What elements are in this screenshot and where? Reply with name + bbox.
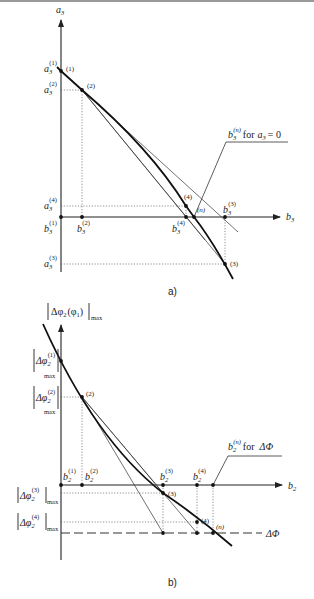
b2n-leader bbox=[213, 456, 282, 485]
diagram-canvas: a3 b3 b3(n)fora3= 0 (1) (2) (3) (4) (n) … bbox=[0, 0, 314, 599]
figure-b-caption: b) bbox=[168, 577, 177, 588]
figure-a: a3 b3 b3(n)fora3= 0 (1) (2) (3) (4) (n) … bbox=[44, 4, 295, 297]
a3-1-label: a3(1) bbox=[44, 59, 57, 75]
point-3 bbox=[223, 262, 227, 266]
threshold-marker-2 bbox=[195, 531, 199, 535]
b2-3-label: b2(3) bbox=[160, 467, 173, 483]
a3-2-label: a3(2) bbox=[44, 80, 57, 96]
guide-point-4 bbox=[61, 206, 186, 217]
svg-text:Δφ2(2): Δφ2(2) bbox=[35, 388, 55, 404]
point-4-label: (4) bbox=[184, 193, 193, 201]
b-point-2 bbox=[80, 395, 84, 399]
svg-text:max: max bbox=[44, 372, 56, 379]
figure-b: Δφ2(φ1) max ΔΦ b2(n)forΔΦ bbox=[18, 303, 297, 588]
b2n-annotation: b2(n)forΔΦ bbox=[228, 438, 273, 453]
threshold-label: ΔΦ bbox=[265, 528, 280, 539]
b2-n-marker bbox=[211, 483, 215, 487]
b3-3-label: b3(3) bbox=[223, 200, 236, 216]
point-n bbox=[192, 215, 196, 219]
svg-text:Δφ2(3): Δφ2(3) bbox=[19, 486, 39, 502]
svg-text:Δφ2(1): Δφ2(1) bbox=[35, 351, 55, 367]
figure-a-caption: a) bbox=[168, 286, 177, 297]
b-point-n bbox=[211, 531, 215, 535]
a3-4-label: a3(4) bbox=[44, 196, 57, 212]
svg-text:max: max bbox=[91, 314, 103, 321]
dphi2-curve bbox=[43, 324, 232, 546]
svg-text:Δφ2(φ1): Δφ2(φ1) bbox=[51, 306, 83, 318]
b2-1-marker bbox=[59, 483, 63, 487]
dphi2-1-label: Δφ2(1) max bbox=[34, 349, 58, 379]
guide-point-2 bbox=[61, 90, 82, 217]
point-1-label: (1) bbox=[66, 65, 75, 73]
b2-2-marker bbox=[80, 483, 84, 487]
b2-2-label: b2(2) bbox=[85, 467, 98, 483]
dphi2-axis-label: Δφ2(φ1) max bbox=[48, 303, 103, 321]
point-3-label: (3) bbox=[230, 260, 239, 268]
svg-text:Δφ2(4): Δφ2(4) bbox=[19, 513, 39, 529]
b2-1-label: b2(1) bbox=[63, 467, 76, 483]
svg-text:max: max bbox=[47, 498, 59, 505]
a3-3-label: a3(3) bbox=[44, 254, 57, 270]
b3-3-marker bbox=[223, 215, 227, 219]
b2-4-label: b2(4) bbox=[193, 467, 206, 483]
b3n-leader bbox=[194, 142, 288, 217]
b-point-4-label: (4) bbox=[201, 517, 210, 525]
point-1 bbox=[59, 69, 63, 73]
b3-4-label: b3(4) bbox=[172, 219, 185, 235]
b2-3-marker bbox=[161, 483, 165, 487]
dphi2-4-label: Δφ2(4) max bbox=[18, 513, 59, 532]
point-2 bbox=[80, 88, 84, 92]
b3-axis-label: b3 bbox=[286, 211, 295, 223]
secant-b-3 bbox=[82, 397, 197, 533]
b-point-3-label: (3) bbox=[168, 490, 177, 498]
dphi2-3-label: Δφ2(3) max bbox=[18, 486, 59, 505]
a3-curve bbox=[57, 67, 233, 279]
b-point-2-label: (2) bbox=[86, 390, 95, 398]
point-4 bbox=[184, 204, 188, 208]
b-point-3 bbox=[161, 491, 165, 495]
b-point-n-label: (n) bbox=[216, 523, 225, 531]
b3-2-label: b3(2) bbox=[77, 219, 90, 235]
threshold-marker-1 bbox=[161, 531, 165, 535]
svg-text:max: max bbox=[47, 525, 59, 532]
b-point-1 bbox=[59, 359, 63, 363]
b3-1-marker bbox=[59, 215, 63, 219]
svg-text:max: max bbox=[44, 408, 56, 415]
dphi2-2-label: Δφ2(2) max bbox=[34, 386, 58, 415]
b-point-4 bbox=[195, 520, 199, 524]
guide-b-point-3 bbox=[61, 493, 163, 533]
b2-4-marker bbox=[195, 483, 199, 487]
point-2-label: (2) bbox=[87, 82, 96, 90]
a3-axis-label: a3 bbox=[56, 4, 65, 16]
b3-1-label: b3(1) bbox=[44, 219, 57, 235]
b2-axis-label: b2 bbox=[288, 480, 297, 492]
b3n-annotation: b3(n)fora3= 0 bbox=[228, 126, 281, 141]
point-n-label: (n) bbox=[197, 206, 206, 214]
